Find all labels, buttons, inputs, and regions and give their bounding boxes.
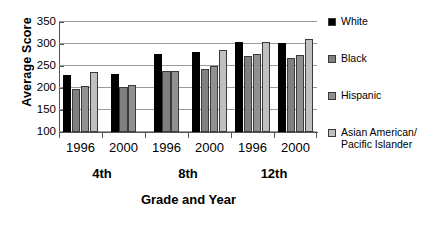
x-axis-tick-mark (316, 133, 317, 138)
x-axis-grade-label: 12th (231, 166, 317, 181)
bar (210, 66, 218, 132)
legend-label: White (341, 16, 368, 28)
bar (128, 85, 136, 132)
bar (278, 43, 286, 132)
bar-group (231, 22, 274, 132)
x-axis-grade-labels: 4th8th12th (59, 166, 318, 184)
bar (81, 86, 89, 132)
legend-label: Asian American/ Pacific Islander (341, 127, 417, 150)
x-axis-grade-label: 4th (59, 166, 145, 181)
x-axis-tick-mark (231, 133, 232, 138)
bar-group (145, 22, 188, 132)
legend-item[interactable]: Asian American/ Pacific Islander (328, 127, 417, 150)
bar (154, 54, 162, 132)
y-axis-tick-label: 200 (12, 81, 56, 93)
legend-swatch-icon (328, 55, 336, 63)
chart-container: Average Score 350300250200150100 1996200… (0, 0, 436, 230)
bar (171, 71, 179, 132)
legend-item[interactable]: Hispanic (328, 90, 381, 102)
x-axis-tick-mark (188, 133, 189, 138)
bar-group (188, 22, 231, 132)
x-axis-year-label: 1996 (145, 140, 188, 155)
x-axis-tick-marks (59, 133, 318, 138)
x-axis-tick-mark (102, 133, 103, 138)
y-axis-tick-label: 350 (12, 15, 56, 27)
y-axis-tick-label: 150 (12, 103, 56, 115)
y-axis-tick-label: 300 (12, 37, 56, 49)
x-axis-year-label: 1996 (231, 140, 274, 155)
x-axis-year-labels: 199620001996200019962000 (59, 140, 318, 158)
bar (296, 55, 304, 132)
x-axis-grade-label: 8th (145, 166, 231, 181)
bar (305, 39, 313, 132)
bar (201, 69, 209, 132)
x-axis-year-label: 2000 (102, 140, 145, 155)
legend-label: Black (341, 53, 367, 65)
x-axis-tick-mark (59, 133, 60, 138)
bar-group (274, 22, 317, 132)
legend-swatch-icon (328, 92, 336, 100)
y-axis-tick-label: 250 (12, 59, 56, 71)
bar (244, 56, 252, 132)
bar (262, 42, 270, 132)
x-axis-year-label: 2000 (188, 140, 231, 155)
legend-swatch-icon (328, 18, 336, 26)
bar (162, 71, 170, 132)
bar (192, 52, 200, 132)
bar (253, 54, 261, 132)
legend-label: Hispanic (341, 90, 381, 102)
legend-item[interactable]: Black (328, 53, 367, 65)
bar (63, 75, 71, 132)
bar-group (59, 22, 102, 132)
bar (72, 89, 80, 132)
x-axis-tick-mark (274, 133, 275, 138)
bar (111, 74, 119, 132)
bar (235, 42, 243, 132)
y-axis-tick-label: 100 (12, 125, 56, 137)
x-axis-title: Grade and Year (59, 192, 318, 207)
legend-swatch-icon (328, 129, 336, 137)
x-axis-tick-mark (145, 133, 146, 138)
bar (119, 87, 127, 132)
x-axis-year-label: 1996 (59, 140, 102, 155)
bar (287, 58, 295, 132)
bar (90, 72, 98, 132)
y-axis-tick-labels: 350300250200150100 (8, 22, 56, 133)
bar-group (102, 22, 145, 132)
legend-item[interactable]: White (328, 16, 368, 28)
plot-area (59, 22, 317, 132)
bar (219, 50, 227, 132)
x-axis-year-label: 2000 (274, 140, 317, 155)
